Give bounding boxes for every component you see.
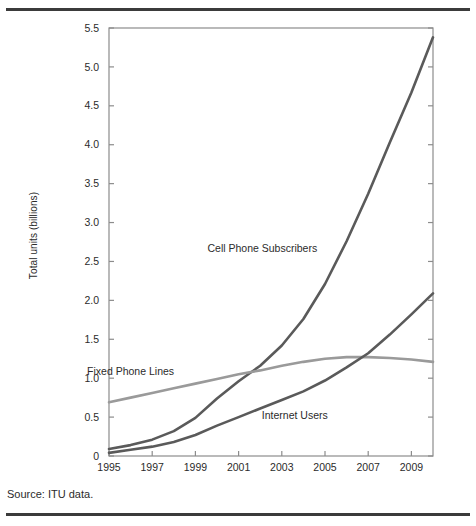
chart-plot-area: Total units (billions) 00.51.01.52.02.53… xyxy=(0,14,476,480)
figure-container: Total units (billions) 00.51.01.52.02.53… xyxy=(0,0,476,526)
y-axis-tick-label: 5.0 xyxy=(84,61,99,73)
y-axis-tick-label: 1.5 xyxy=(84,333,99,345)
y-axis-tick-label: 0 xyxy=(93,450,99,462)
y-axis-tick-label: 0.5 xyxy=(84,411,99,423)
x-axis-tick-label: 2007 xyxy=(357,461,381,473)
y-axis-tick-label: 2.0 xyxy=(84,294,99,306)
source-note: Source: ITU data. xyxy=(7,488,93,500)
y-axis-tick-label: 4.5 xyxy=(84,99,99,111)
series-line-fixed-phone-lines xyxy=(109,357,433,402)
y-axis-tick-label: 2.5 xyxy=(84,255,99,267)
x-axis-tick-label: 1995 xyxy=(97,461,121,473)
y-axis-tick-label: 3.5 xyxy=(84,177,99,189)
x-axis-tick-label: 1999 xyxy=(184,461,208,473)
x-axis-tick-label: 1997 xyxy=(141,461,165,473)
x-axis-tick-label: 2009 xyxy=(400,461,424,473)
series-label-internet-users: Internet Users xyxy=(262,409,328,421)
bottom-divider-rule xyxy=(6,513,470,516)
x-axis-tick-label: 2005 xyxy=(313,461,337,473)
top-divider-rule xyxy=(6,8,470,11)
x-axis-tick-label: 2001 xyxy=(227,461,251,473)
series-label-cell-phone-subscribers: Cell Phone Subscribers xyxy=(207,242,317,254)
line-chart-svg: 00.51.01.52.02.53.03.54.04.55.05.5199519… xyxy=(0,14,476,480)
series-label-fixed-phone-lines: Fixed Phone Lines xyxy=(87,365,174,377)
x-axis-tick-label: 2003 xyxy=(270,461,294,473)
y-axis-tick-label: 4.0 xyxy=(84,138,99,150)
y-axis-tick-label: 5.5 xyxy=(84,22,99,34)
y-axis-tick-label: 3.0 xyxy=(84,216,99,228)
